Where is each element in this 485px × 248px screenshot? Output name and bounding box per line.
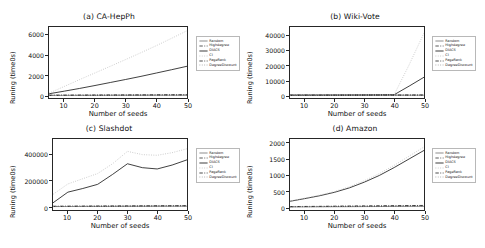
- panel-a-xlabel: Number of seeds: [48, 110, 188, 118]
- legend-line-swatch-icon: [199, 171, 208, 175]
- y-tickmark: [286, 142, 289, 143]
- y-tick-label: 4000: [22, 51, 44, 58]
- x-tickmark: [334, 99, 335, 102]
- x-tickmark: [364, 99, 365, 102]
- series-line-diacs: [290, 77, 424, 95]
- series-canvas: [290, 27, 424, 98]
- y-tickmark: [49, 207, 52, 208]
- panel-b-legend: RandomHighdegreeDIACSCIPageRankDegreeDis…: [432, 36, 476, 71]
- y-tick-label: 0: [260, 205, 285, 212]
- x-tickmark: [156, 99, 157, 102]
- y-tickmark: [45, 75, 48, 76]
- panel-b-wiki-vote: (b) Wiki-Vote Runing (time0s) 0100002000…: [242, 10, 485, 124]
- y-tick-label: 30000: [259, 47, 285, 54]
- legend-line-swatch-icon: [199, 59, 208, 63]
- legend-line-swatch-icon: [435, 54, 444, 58]
- panel-d-legend: RandomHighdegreeDIACSCIPageRankDegreeDis…: [432, 148, 476, 183]
- series-line-ci: [49, 31, 187, 93]
- legend-item-degreediscount[interactable]: DegreeDiscount: [199, 63, 238, 68]
- y-tickmark: [286, 65, 289, 66]
- y-tick-label: 400000: [18, 151, 48, 158]
- y-tickmark: [286, 208, 289, 209]
- y-tickmark: [286, 81, 289, 82]
- panel-c-legend: RandomHighdegreeDIACSCIPageRankDegreeDis…: [196, 148, 240, 183]
- series-line-ci: [290, 33, 424, 95]
- y-tickmark: [49, 180, 52, 181]
- x-tickmark: [364, 211, 365, 214]
- panel-d-ylabel: Runing (time0s): [246, 165, 254, 218]
- y-tick-label: 6000: [22, 31, 44, 38]
- series-canvas: [53, 139, 187, 210]
- legend-item-degreediscount[interactable]: DegreeDiscount: [435, 175, 474, 180]
- legend-item-label: DegreeDiscount: [209, 175, 236, 180]
- x-tickmark: [188, 211, 189, 214]
- legend-line-swatch-icon: [199, 39, 208, 43]
- x-tickmark: [394, 99, 395, 102]
- y-tick-label: 10000: [259, 77, 285, 84]
- panel-c-xlabel: Number of seeds: [52, 222, 188, 230]
- legend-line-swatch-icon: [435, 49, 444, 53]
- panel-d-title: (d) Amazon: [260, 124, 450, 133]
- series-line-diacs: [49, 66, 187, 93]
- panel-c-plot-area: [52, 138, 188, 211]
- legend-line-swatch-icon: [199, 166, 208, 170]
- figure-four-panel-runtime-charts: (a) CA-HepPh Runing (time0s) 02000400060…: [0, 0, 485, 248]
- x-tickmark: [63, 99, 64, 102]
- panel-b-title: (b) Wiki-Vote: [260, 12, 450, 21]
- legend-line-swatch-icon: [199, 49, 208, 53]
- y-tickmark: [286, 175, 289, 176]
- panel-b-ylabel: Runing (time0s): [246, 51, 254, 104]
- x-tickmark: [334, 211, 335, 214]
- panel-d-amazon: (d) Amazon Runing (time0s) 0500100015002…: [242, 122, 485, 242]
- series-line-diacs: [290, 150, 424, 201]
- x-tickmark: [304, 99, 305, 102]
- panel-a-ca-hepph: (a) CA-HepPh Runing (time0s) 02000400060…: [0, 10, 242, 124]
- legend-line-swatch-icon: [435, 166, 444, 170]
- panel-d-plot-area: [289, 138, 425, 211]
- y-tickmark: [45, 34, 48, 35]
- legend-line-swatch-icon: [199, 44, 208, 48]
- y-tick-label: 1500: [260, 156, 285, 163]
- panel-b-plot-area: [289, 26, 425, 99]
- y-tickmark: [286, 96, 289, 97]
- legend-line-swatch-icon: [435, 39, 444, 43]
- y-tick-label: 40000: [259, 32, 285, 39]
- y-tickmark: [45, 55, 48, 56]
- x-tickmark: [94, 99, 95, 102]
- y-tick-label: 2000: [260, 139, 285, 146]
- series-line-ci: [53, 149, 187, 195]
- legend-line-swatch-icon: [435, 151, 444, 155]
- y-tick-label: 1000: [260, 172, 285, 179]
- panel-c-ylabel: Runing (time0s): [9, 165, 17, 218]
- legend-line-swatch-icon: [199, 175, 208, 179]
- legend-line-swatch-icon: [199, 156, 208, 160]
- legend-item-degreediscount[interactable]: DegreeDiscount: [199, 175, 238, 180]
- x-tickmark: [425, 211, 426, 214]
- legend-item-label: DegreeDiscount: [445, 175, 472, 180]
- legend-line-swatch-icon: [199, 161, 208, 165]
- legend-line-swatch-icon: [199, 63, 208, 67]
- x-tickmark: [394, 211, 395, 214]
- x-tickmark: [304, 211, 305, 214]
- x-tickmark: [125, 99, 126, 102]
- panel-d-xlabel: Number of seeds: [289, 222, 425, 230]
- legend-line-swatch-icon: [199, 151, 208, 155]
- panel-a-ylabel: Runing (time0s): [9, 51, 17, 104]
- panel-c-title: (c) Slashdot: [14, 124, 204, 133]
- y-tick-label: 20000: [259, 62, 285, 69]
- legend-line-swatch-icon: [435, 171, 444, 175]
- x-tickmark: [188, 99, 189, 102]
- y-tick-label: 0: [22, 93, 44, 100]
- x-tickmark: [425, 99, 426, 102]
- y-tick-label: 500: [260, 188, 285, 195]
- series-canvas: [290, 139, 424, 210]
- series-canvas: [49, 27, 187, 98]
- y-tick-label: 0: [18, 204, 48, 211]
- panel-c-slashdot: (c) Slashdot Runing (time0s) 02000004000…: [0, 122, 242, 242]
- series-line-diacs: [53, 160, 187, 203]
- legend-line-swatch-icon: [435, 44, 444, 48]
- panel-b-xlabel: Number of seeds: [289, 110, 425, 118]
- y-tickmark: [49, 154, 52, 155]
- legend-item-degreediscount[interactable]: DegreeDiscount: [435, 63, 474, 68]
- legend-line-swatch-icon: [435, 59, 444, 63]
